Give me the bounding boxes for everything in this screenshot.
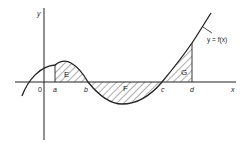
region-g-label: G <box>181 68 187 77</box>
origin-label: 0 <box>38 86 42 93</box>
x-axis-label: x <box>230 86 235 93</box>
point-d-label: d <box>190 86 195 93</box>
point-b-label: b <box>84 86 88 93</box>
point-a-label: a <box>53 86 57 93</box>
diagram-canvas: y x 0 a b c d E F G y = f(x) <box>0 0 250 151</box>
region-e <box>55 61 88 82</box>
region-e-label: E <box>64 70 69 79</box>
region-f-label: F <box>123 84 128 93</box>
point-c-label: c <box>161 86 165 93</box>
curve-label: y = f(x) <box>207 36 227 44</box>
curve-label-pointer <box>203 27 212 33</box>
y-axis-label: y <box>36 10 41 18</box>
